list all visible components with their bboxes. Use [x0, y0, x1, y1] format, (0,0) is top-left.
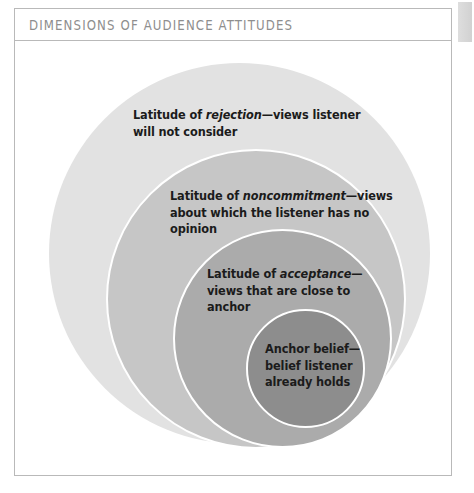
diagram-canvas: Latitude of rejection—views listener wil… [15, 42, 451, 476]
label-noncommitment-emphasis: noncommitment [243, 188, 346, 203]
page-corner-shadow [458, 2, 472, 42]
panel-header: DIMENSIONS OF AUDIENCE ATTITUDES [15, 9, 451, 41]
label-rejection-emphasis: rejection [206, 107, 262, 122]
label-acceptance-lead: Latitude of [207, 266, 280, 281]
label-noncommitment-lead: Latitude of [170, 188, 243, 203]
figure-panel: DIMENSIONS OF AUDIENCE ATTITUDES Latitud… [14, 8, 452, 476]
page-top-margin [0, 0, 474, 6]
label-anchor-belief: Anchor belief—belief listener already ho… [265, 341, 395, 391]
figure-root: DIMENSIONS OF AUDIENCE ATTITUDES Latitud… [0, 0, 474, 493]
label-rejection-lead: Latitude of [133, 107, 206, 122]
label-acceptance-emphasis: acceptance [280, 266, 351, 281]
label-rejection: Latitude of rejection—views listener wil… [133, 107, 383, 140]
label-anchor-rest: Anchor belief—belief listener already ho… [265, 341, 360, 389]
label-acceptance: Latitude of acceptance—views that are cl… [207, 266, 397, 316]
label-noncommitment: Latitude of noncommitment—views about wh… [170, 188, 400, 238]
figure-title: DIMENSIONS OF AUDIENCE ATTITUDES [29, 17, 293, 33]
